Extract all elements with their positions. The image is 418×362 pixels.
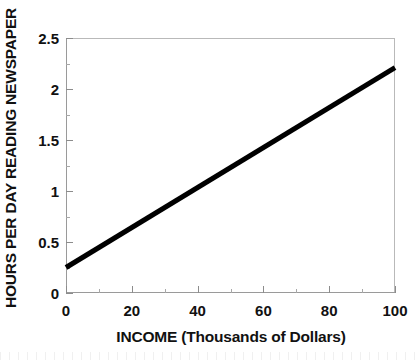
x-axis-title: INCOME (Thousands of Dollars): [66, 328, 396, 346]
x-tick-label: 20: [123, 302, 140, 319]
data-line: [66, 68, 395, 268]
y-tick-label: 0.5: [38, 234, 59, 251]
x-tick-label: 40: [189, 302, 206, 319]
y-tick-label: 2.5: [38, 30, 59, 47]
scan-artifact: [0, 352, 418, 360]
y-tick-label: 1: [51, 183, 59, 200]
y-tick-label: 1.5: [38, 132, 59, 149]
y-tick-label: 0: [51, 285, 59, 302]
series-layer: [66, 38, 395, 293]
x-tick-major: [395, 286, 396, 293]
x-tick-label: 80: [321, 302, 338, 319]
x-tick-label: 60: [255, 302, 272, 319]
x-tick-label: 0: [62, 302, 70, 319]
y-tick-label: 2: [51, 81, 59, 98]
y-axis-title: HOURS PER DAY READING NEWSPAPER: [0, 8, 22, 308]
plot-area: 00.511.522.5 020406080100: [66, 38, 395, 293]
x-tick-label: 100: [382, 302, 407, 319]
chart-figure: HOURS PER DAY READING NEWSPAPER 00.511.5…: [0, 0, 418, 362]
y-tick-major: [66, 293, 73, 294]
